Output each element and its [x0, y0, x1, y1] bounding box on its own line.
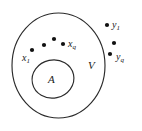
- x1-label: x1: [21, 52, 30, 65]
- x-dot-3: [52, 37, 56, 41]
- x-dot-2: [42, 43, 46, 47]
- inner-region-label: A: [47, 73, 55, 85]
- diagram-canvas: V A x1 xq y1 yq: [0, 0, 142, 131]
- y1-label-subscript: 1: [116, 24, 120, 32]
- yq-label-subscript: q: [120, 56, 124, 64]
- y1-dot: [105, 23, 109, 27]
- outer-region-label: V: [88, 59, 96, 71]
- set-diagram-figure: V A x1 xq y1 yq: [0, 0, 142, 131]
- x1-dot: [30, 48, 34, 52]
- yq-dot: [108, 52, 112, 56]
- x1-label-subscript: 1: [26, 57, 30, 65]
- y-dot-2: [112, 41, 116, 45]
- xq-label: xq: [67, 38, 76, 51]
- xq-dot: [61, 42, 65, 46]
- y1-label: y1: [111, 19, 120, 32]
- yq-label: yq: [115, 51, 124, 64]
- xq-label-subscript: q: [72, 43, 76, 51]
